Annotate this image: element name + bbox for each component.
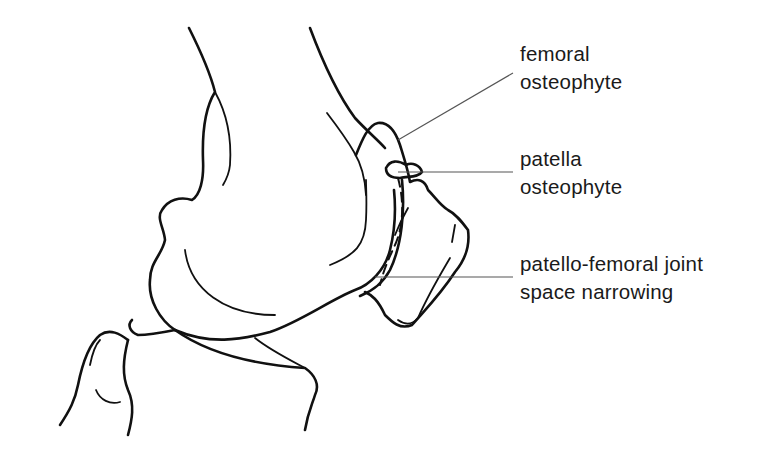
leader-lines	[375, 73, 513, 277]
label-line-1: femoral	[520, 40, 622, 68]
knee-joint-diagram	[0, 0, 778, 469]
tibia-outline	[60, 320, 317, 435]
label-line-1: patello-femoral joint	[520, 250, 703, 278]
label-patella-osteophyte: patella osteophyte	[520, 145, 622, 201]
femur-outline	[150, 28, 395, 340]
label-line-2: osteophyte	[520, 173, 622, 201]
label-line-1: patella	[520, 145, 622, 173]
label-line-2: osteophyte	[520, 68, 622, 96]
patella-outline	[356, 123, 468, 327]
label-joint-space-narrowing: patello-femoral joint space narrowing	[520, 250, 703, 306]
label-femoral-osteophyte: femoral osteophyte	[520, 40, 622, 96]
label-line-2: space narrowing	[520, 278, 703, 306]
leader-femoral-osteophyte	[398, 73, 513, 140]
